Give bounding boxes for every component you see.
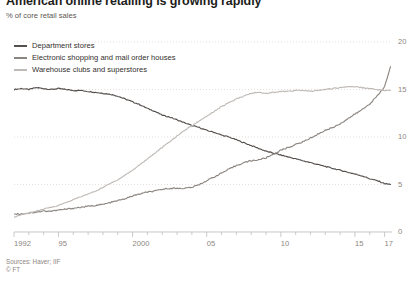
- series-line: [14, 87, 391, 184]
- x-axis-tick-label: 1992: [14, 239, 31, 248]
- chart-page: American online retailing is growing rap…: [0, 0, 418, 285]
- chart-title: American online retailing is growing rap…: [6, 0, 261, 8]
- x-axis-tick-label: 95: [58, 239, 66, 248]
- x-axis-tick-label: 10: [281, 239, 289, 248]
- x-axis-tick-label: 2000: [133, 239, 150, 248]
- x-axis-tick-label: 15: [355, 239, 363, 248]
- y-axis-tick-label: 0: [398, 227, 402, 236]
- y-axis-tick-label: 5: [398, 180, 402, 189]
- series-line: [14, 86, 391, 217]
- y-axis-tick-label: 20: [398, 37, 406, 46]
- chart-plot-area: [14, 36, 392, 232]
- chart-subtitle: % of core retail sales: [6, 11, 76, 20]
- copyright-note: © FT: [6, 266, 20, 273]
- chart-canvas: [14, 36, 392, 232]
- y-axis-tick-label: 10: [398, 132, 406, 141]
- x-axis-tick-label: 17: [385, 239, 393, 248]
- source-note: Sources: Haver; IIF: [6, 258, 60, 265]
- y-axis-tick-label: 15: [398, 85, 406, 94]
- x-axis-tick-label: 05: [207, 239, 215, 248]
- series-line: [14, 67, 391, 215]
